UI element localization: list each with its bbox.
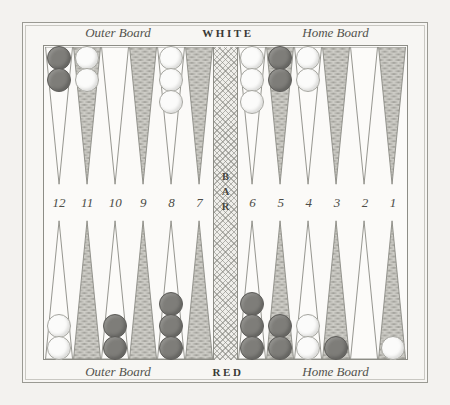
- point-2-red-home[interactable]: [350, 218, 378, 359]
- checker-white[interactable]: [296, 336, 320, 360]
- point-8-red-outer[interactable]: [157, 218, 185, 359]
- point-triangle-11: [73, 218, 101, 359]
- point-4-red-home[interactable]: [294, 218, 322, 359]
- checker-stack-point-8[interactable]: [157, 293, 185, 359]
- checker-stack-point-8[interactable]: [157, 47, 185, 113]
- checker-red[interactable]: [159, 314, 183, 338]
- checker-white[interactable]: [75, 46, 99, 70]
- point-number-4: 4: [295, 195, 323, 211]
- point-triangle-2: [350, 47, 378, 187]
- checker-red[interactable]: [159, 292, 183, 316]
- checker-stack-point-11[interactable]: [73, 47, 101, 91]
- point-9-red-outer[interactable]: [129, 218, 157, 359]
- checker-white[interactable]: [47, 336, 71, 360]
- checker-stack-point-12[interactable]: [45, 47, 73, 91]
- label-top-home-board-text: Home Board: [302, 25, 368, 41]
- checker-red[interactable]: [268, 68, 292, 92]
- checker-red[interactable]: [159, 336, 183, 360]
- point-10-white-outer[interactable]: [101, 47, 129, 187]
- checker-red[interactable]: [268, 336, 292, 360]
- point-3-white-home[interactable]: [322, 47, 350, 187]
- checker-white[interactable]: [75, 68, 99, 92]
- checker-white[interactable]: [381, 336, 405, 360]
- checker-white[interactable]: [296, 68, 320, 92]
- bar-letter-b: B: [214, 169, 237, 184]
- checker-red[interactable]: [324, 336, 348, 360]
- label-bottom-home-board-text: Home Board: [302, 364, 368, 380]
- checker-stack-point-5[interactable]: [266, 47, 294, 91]
- checker-white[interactable]: [47, 314, 71, 338]
- label-bottom-player-text: RED: [212, 366, 243, 378]
- point-triangle-1: [378, 47, 406, 187]
- backgammon-board-figure: Outer Board WHITE Home Board BAR 1211109…: [0, 0, 450, 405]
- point-7-white-outer[interactable]: [185, 47, 213, 187]
- checker-red[interactable]: [240, 292, 264, 316]
- point-triangle-7: [185, 47, 213, 187]
- point-5-white-home[interactable]: [266, 47, 294, 187]
- checker-red[interactable]: [268, 46, 292, 70]
- label-top-outer-board: Outer Board: [43, 25, 193, 41]
- checker-stack-point-4[interactable]: [294, 315, 322, 359]
- point-number-9: 9: [129, 195, 157, 211]
- checker-red[interactable]: [103, 336, 127, 360]
- checker-white[interactable]: [296, 314, 320, 338]
- checker-white[interactable]: [159, 46, 183, 70]
- point-10-red-outer[interactable]: [101, 218, 129, 359]
- point-6-red-home[interactable]: [238, 218, 266, 359]
- checker-white[interactable]: [240, 90, 264, 114]
- checker-stack-point-1[interactable]: [378, 337, 406, 359]
- checker-stack-point-6[interactable]: [238, 47, 266, 113]
- checker-white[interactable]: [240, 68, 264, 92]
- point-number-6: 6: [239, 195, 267, 211]
- point-number-5: 5: [267, 195, 295, 211]
- point-number-3: 3: [323, 195, 351, 211]
- point-8-white-outer[interactable]: [157, 47, 185, 187]
- quadrant-bottom-right-red-home: [238, 218, 407, 359]
- checker-red[interactable]: [103, 314, 127, 338]
- point-9-white-outer[interactable]: [129, 47, 157, 187]
- point-triangle-10: [101, 47, 129, 187]
- checker-white[interactable]: [159, 90, 183, 114]
- point-6-white-home[interactable]: [238, 47, 266, 187]
- checker-red[interactable]: [240, 314, 264, 338]
- point-number-7: 7: [185, 195, 213, 211]
- point-7-red-outer[interactable]: [185, 218, 213, 359]
- checker-stack-point-5[interactable]: [266, 315, 294, 359]
- point-number-8: 8: [157, 195, 185, 211]
- point-11-red-outer[interactable]: [73, 218, 101, 359]
- checker-red[interactable]: [47, 46, 71, 70]
- checker-stack-point-3[interactable]: [322, 337, 350, 359]
- point-number-11: 11: [73, 195, 101, 211]
- point-12-white-outer[interactable]: [45, 47, 73, 187]
- checker-red[interactable]: [240, 336, 264, 360]
- point-5-red-home[interactable]: [266, 218, 294, 359]
- checker-white[interactable]: [296, 46, 320, 70]
- point-triangle-3: [322, 47, 350, 187]
- point-number-2: 2: [351, 195, 379, 211]
- point-4-white-home[interactable]: [294, 47, 322, 187]
- checker-stack-point-10[interactable]: [101, 315, 129, 359]
- point-11-white-outer[interactable]: [73, 47, 101, 187]
- caption-row-bottom: Outer Board RED Home Board: [43, 361, 408, 383]
- checker-red[interactable]: [47, 68, 71, 92]
- caption-row-top: Outer Board WHITE Home Board: [43, 22, 408, 44]
- point-2-white-home[interactable]: [350, 47, 378, 187]
- label-top-home-board: Home Board: [263, 25, 408, 41]
- checker-stack-point-6[interactable]: [238, 293, 266, 359]
- point-3-red-home[interactable]: [322, 218, 350, 359]
- checker-stack-point-12[interactable]: [45, 315, 73, 359]
- point-number-1: 1: [379, 195, 407, 211]
- point-numbers-row: 121110987654321: [45, 187, 408, 218]
- checker-white[interactable]: [240, 46, 264, 70]
- point-triangle-2: [350, 218, 378, 359]
- point-1-red-home[interactable]: [378, 218, 406, 359]
- checker-stack-point-4[interactable]: [294, 47, 322, 91]
- quadrant-top-left-white-outer: [45, 47, 214, 187]
- label-bottom-player: RED: [193, 366, 263, 378]
- checker-white[interactable]: [159, 68, 183, 92]
- label-bottom-outer-board-text: Outer Board: [85, 364, 151, 380]
- point-12-red-outer[interactable]: [45, 218, 73, 359]
- point-1-white-home[interactable]: [378, 47, 406, 187]
- checker-red[interactable]: [268, 314, 292, 338]
- point-triangle-9: [129, 218, 157, 359]
